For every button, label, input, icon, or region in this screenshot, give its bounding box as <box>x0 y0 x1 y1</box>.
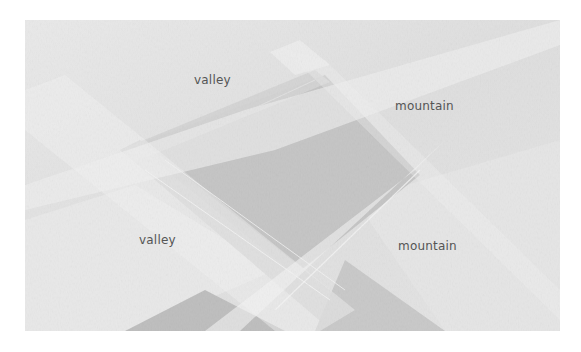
fold-label-mountain-bottom: mountain <box>398 239 457 253</box>
fold-label-valley-bottom: valley <box>139 233 176 247</box>
paper-folds-illustration <box>25 20 560 331</box>
folded-paper-photo <box>25 20 560 331</box>
fold-label-valley-top: valley <box>194 73 231 87</box>
fold-label-mountain-top: mountain <box>395 99 454 113</box>
